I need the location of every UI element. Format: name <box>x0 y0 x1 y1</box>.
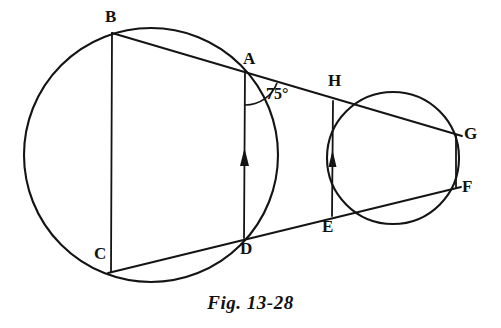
vertex-label-f: F <box>462 178 472 195</box>
chord-bc <box>111 33 112 272</box>
chord-eh-arrowhead-icon <box>329 150 337 167</box>
vertex-label-h: H <box>328 72 341 89</box>
vertex-label-c: C <box>94 245 106 262</box>
figure-page: B A C D H E G F 75° Fig. 13-28 <box>0 0 501 328</box>
vertex-label-b: B <box>105 8 116 25</box>
angle-measure-label: 75° <box>266 86 288 102</box>
vertex-label-a: A <box>243 50 255 67</box>
figure-caption: Fig. 13-28 <box>0 292 501 314</box>
vertex-label-g: G <box>464 125 477 142</box>
secant-line-cdef <box>108 187 461 273</box>
vertex-label-d: D <box>240 240 252 257</box>
chord-da-arrowhead-icon <box>240 148 249 166</box>
vertex-label-e: E <box>322 218 333 235</box>
